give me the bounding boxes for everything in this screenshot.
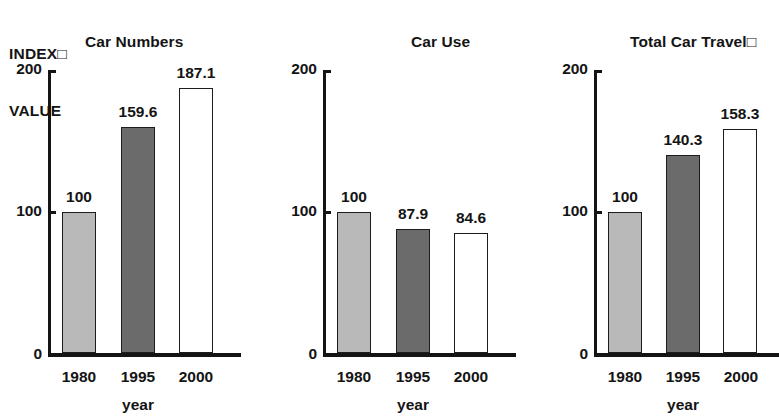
- bar-value-1980: 100: [324, 188, 384, 206]
- panel-car-numbers: Car Numbers 200 100 0 100 159.6 187.1 19…: [0, 0, 260, 417]
- bar-value-2000: 158.3: [706, 105, 774, 123]
- bar-value-1980: 100: [49, 188, 109, 206]
- panel-title: Car Numbers: [85, 33, 183, 51]
- bar-1995: [666, 155, 700, 353]
- x-axis-name: year: [108, 396, 168, 414]
- y-tick-mark-100: [48, 211, 56, 214]
- panel-car-use: Car Use 200 100 0 100 87.9 84.6 1980 199…: [269, 0, 524, 417]
- panel-total-car-travel: Total Car Travel□ 200 100 0 100 140.3 15…: [542, 0, 779, 417]
- bar-1995: [396, 229, 430, 353]
- x-axis-name: year: [383, 396, 443, 414]
- x-tick-label-1995: 1995: [383, 368, 443, 386]
- y-tick-label-0: 0: [552, 345, 588, 363]
- bar-1995: [121, 127, 155, 353]
- panel-title: Total Car Travel□: [630, 33, 756, 51]
- x-tick-label-2000: 2000: [441, 368, 501, 386]
- x-axis-line: [323, 353, 516, 357]
- y-tick-label-0: 0: [6, 345, 42, 363]
- y-tick-label-100: 100: [6, 202, 42, 220]
- y-tick-mark-200: [323, 70, 331, 73]
- x-axis-line: [48, 353, 241, 357]
- x-tick-label-1980: 1980: [49, 368, 109, 386]
- bar-2000: [454, 233, 488, 353]
- y-tick-label-200: 200: [6, 60, 42, 78]
- y-tick-label-100: 100: [552, 202, 588, 220]
- bar-value-2000: 84.6: [437, 209, 505, 227]
- y-tick-label-200: 200: [281, 60, 317, 78]
- y-tick-mark-200: [594, 70, 602, 73]
- y-tick-mark-200: [48, 70, 56, 73]
- bar-2000: [179, 88, 213, 353]
- x-tick-label-1995: 1995: [108, 368, 168, 386]
- bar-value-2000: 187.1: [162, 64, 230, 82]
- y-tick-label-200: 200: [552, 60, 588, 78]
- panel-title: Car Use: [411, 33, 470, 51]
- bar-1980: [62, 212, 96, 353]
- y-tick-mark-100: [323, 211, 331, 214]
- y-tick-label-100: 100: [281, 202, 317, 220]
- x-tick-label-1980: 1980: [595, 368, 655, 386]
- y-tick-mark-100: [594, 211, 602, 214]
- x-tick-label-1980: 1980: [324, 368, 384, 386]
- x-axis-name: year: [653, 396, 713, 414]
- bar-value-1995: 140.3: [649, 131, 717, 149]
- x-tick-label-2000: 2000: [711, 368, 771, 386]
- bar-value-1995: 159.6: [104, 103, 172, 121]
- x-axis-line: [594, 353, 779, 357]
- bar-1980: [337, 212, 371, 353]
- bar-value-1980: 100: [595, 188, 655, 206]
- y-tick-label-0: 0: [281, 345, 317, 363]
- bar-2000: [723, 129, 757, 353]
- bar-1980: [608, 212, 642, 353]
- x-tick-label-2000: 2000: [166, 368, 226, 386]
- x-tick-label-1995: 1995: [653, 368, 713, 386]
- figure-canvas: INDEX□ VALUE Car Numbers 200 100 0 100 1…: [0, 0, 779, 417]
